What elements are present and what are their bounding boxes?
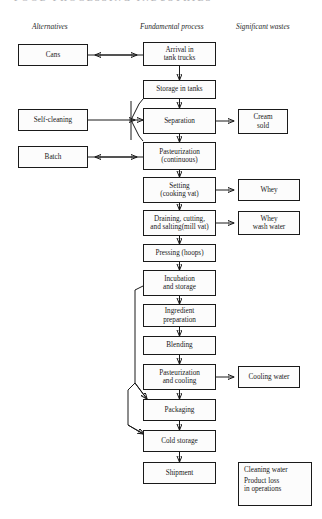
node-ingredient-preparation: Ingredient preparation bbox=[143, 304, 216, 327]
node-self-cleaning: Self-cleaning bbox=[18, 109, 88, 131]
node-pressing-hoops: Pressing (hoops) bbox=[143, 244, 216, 262]
node-cold-storage: Cold storage bbox=[143, 430, 216, 452]
node-shipment: Shipment bbox=[143, 462, 216, 484]
node-whey: Whey bbox=[238, 179, 300, 201]
node-cooling-water: Cooling water bbox=[238, 366, 300, 388]
node-arrival-in-tank-trucks: Arrival in tank trucks bbox=[143, 42, 216, 66]
node-setting-cooking-vat: Setting (cooking vat) bbox=[143, 177, 216, 203]
node-pasteurization-and-cooling: Pasteurization and cooling bbox=[143, 364, 216, 390]
node-draining-cutting-salting: Draining, cutting, and salting(mill vat) bbox=[143, 210, 216, 236]
node-pasteurization-continuous: Pasteurization (continuous) bbox=[143, 142, 216, 170]
node-batch: Batch bbox=[18, 146, 88, 168]
node-whey-wash-water: Whey wash water bbox=[238, 211, 300, 235]
node-waste-summary: Cleaning water Product loss in operation… bbox=[238, 462, 312, 506]
node-incubation-and-storage: Incubation and storage bbox=[143, 270, 216, 296]
node-packaging: Packaging bbox=[143, 399, 216, 421]
node-cans: Cans bbox=[18, 44, 88, 66]
waste-summary-item-product-loss: Product loss in operations bbox=[244, 477, 307, 494]
flowchart-figure: FOOD PROCESSING INDUSTRIES Alternatives … bbox=[0, 0, 322, 519]
node-storage-in-tanks: Storage in tanks bbox=[143, 80, 216, 99]
node-blending: Blending bbox=[143, 336, 216, 355]
waste-summary-item-cleaning-water: Cleaning water bbox=[244, 466, 307, 475]
node-separation: Separation bbox=[143, 108, 216, 134]
node-cream-sold: Cream sold bbox=[238, 109, 288, 134]
